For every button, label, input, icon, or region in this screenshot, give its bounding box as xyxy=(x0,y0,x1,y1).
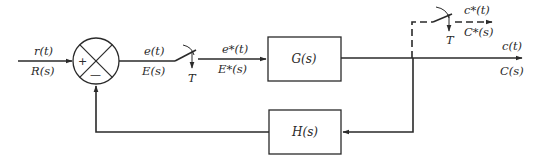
forward-block-g: G(s) xyxy=(268,37,341,81)
error-laplace-label: E(s) xyxy=(141,64,165,78)
feedback-block-label: H(s) xyxy=(291,125,318,139)
sampler-1-period-label: T xyxy=(188,71,197,85)
input-time-label: r(t) xyxy=(34,44,53,58)
sampled-output-laplace-label: C*(s) xyxy=(464,25,493,39)
plus-sign: + xyxy=(78,55,87,68)
output-time-label: c(t) xyxy=(502,39,522,53)
summing-junction: + — xyxy=(73,38,119,84)
sampled-error-laplace-label: E*(s) xyxy=(217,62,247,76)
block-diagram: r(t) R(s) + — e(t) E(s) T e*(t) E*(s) G(… xyxy=(0,0,540,163)
sampled-error-signal: e*(t) E*(s) xyxy=(198,42,266,76)
minus-sign: — xyxy=(90,68,101,81)
error-signal: e(t) E(s) xyxy=(119,44,175,78)
error-time-label: e(t) xyxy=(144,44,164,58)
sampled-error-time-label: e*(t) xyxy=(222,42,248,56)
forward-block-label: G(s) xyxy=(291,52,316,66)
sampler-switch-1: T xyxy=(175,45,197,85)
output-signal: c(t) C(s) xyxy=(341,39,524,78)
input-signal: r(t) R(s) xyxy=(18,44,72,78)
sampler-2-period-label: T xyxy=(446,33,455,47)
sampled-output-time-label: c*(t) xyxy=(464,3,490,17)
sampled-output-branch: T c*(t) C*(s) xyxy=(412,3,493,58)
input-laplace-label: R(s) xyxy=(30,64,55,78)
output-laplace-label: C(s) xyxy=(500,64,524,78)
